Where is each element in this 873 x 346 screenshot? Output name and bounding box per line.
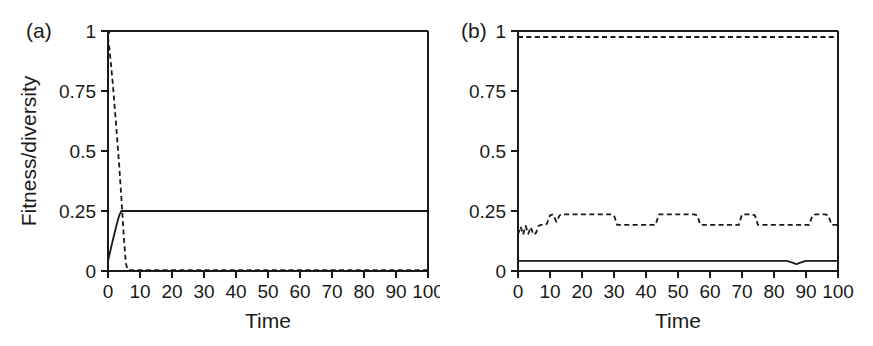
y-tick-label: 0.25 [59,201,96,222]
y-tick-label: 1 [495,21,506,42]
x-tick-label: 40 [225,281,246,302]
y-tick-label: 0.5 [480,141,506,162]
x-tick-label: 90 [795,281,816,302]
series-fitness-top [108,31,428,35]
series-fitness-low [518,261,838,264]
x-tick-label: 0 [513,281,524,302]
y-tick-label: 1 [85,21,96,42]
x-tick-label: 20 [571,281,592,302]
chart-panel-a: (a)00.250.50.7510102030405060708090100Ti… [0,0,440,346]
chart-panel-b: (b)00.250.50.7510102030405060708090100Ti… [433,0,873,346]
x-tick-label: 30 [603,281,624,302]
x-tick-label: 50 [257,281,278,302]
panel-tag-panel-a: (a) [26,19,52,42]
y-tick-label: 0.25 [469,201,506,222]
x-tick-label: 60 [699,281,720,302]
plot-frame [518,31,838,271]
x-tick-label: 60 [289,281,310,302]
figure-root: (a)00.250.50.7510102030405060708090100Ti… [0,0,873,346]
panel-b-svg: (b)00.250.50.7510102030405060708090100Ti… [433,0,873,346]
x-tick-label: 10 [129,281,150,302]
x-tick-label: 20 [161,281,182,302]
x-axis-title: Time [655,309,701,332]
x-tick-label: 10 [539,281,560,302]
y-tick-label: 0 [495,261,506,282]
x-tick-label: 90 [385,281,406,302]
panel-a-svg: (a)00.250.50.7510102030405060708090100Ti… [0,0,440,346]
x-tick-label: 0 [103,281,114,302]
series-diversity-oscillating [518,214,838,234]
series-diversity-decay [108,37,428,270]
y-axis-title: Fitness/diversity [17,75,40,226]
y-tick-label: 0.5 [70,141,96,162]
series-fitness-mid [108,211,428,261]
panel-tag-panel-b: (b) [461,19,487,42]
plot-frame [108,31,428,271]
x-tick-label: 40 [635,281,656,302]
x-tick-label: 50 [667,281,688,302]
x-tick-label: 70 [731,281,752,302]
x-tick-label: 70 [321,281,342,302]
y-tick-label: 0 [85,261,96,282]
x-tick-label: 80 [763,281,784,302]
y-tick-label: 0.75 [59,81,96,102]
x-tick-label: 100 [822,281,854,302]
x-tick-label: 30 [193,281,214,302]
x-axis-title: Time [245,309,291,332]
y-tick-label: 0.75 [469,81,506,102]
x-tick-label: 80 [353,281,374,302]
